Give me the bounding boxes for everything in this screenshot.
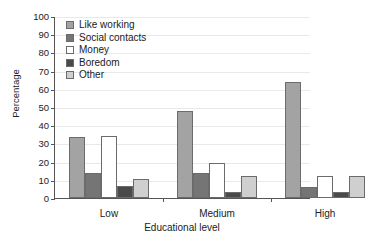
legend-label: Money bbox=[79, 45, 109, 55]
y-tick-label: 80 bbox=[27, 49, 49, 59]
bar-like-working[interactable] bbox=[69, 137, 85, 198]
y-tick-label: 50 bbox=[27, 103, 49, 113]
bar-other[interactable] bbox=[241, 176, 257, 198]
legend-label: Social contacts bbox=[79, 33, 146, 43]
legend-item-social-contacts[interactable]: Social contacts bbox=[66, 33, 146, 43]
legend-item-boredom[interactable]: Boredom bbox=[66, 58, 146, 68]
x-tick-label-low: Low bbox=[55, 208, 163, 219]
y-tick-label: 0 bbox=[27, 194, 49, 204]
y-tick-label: 100 bbox=[27, 12, 49, 22]
y-tick-mark bbox=[51, 199, 55, 200]
bar-social-contacts[interactable] bbox=[85, 173, 101, 198]
y-tick-label: 10 bbox=[27, 176, 49, 186]
bar-group-high: High bbox=[271, 17, 369, 198]
legend: Like workingSocial contactsMoneyBoredomO… bbox=[66, 20, 146, 80]
bar-boredom[interactable] bbox=[117, 186, 133, 198]
x-tick-mark bbox=[271, 198, 272, 202]
y-tick-label: 60 bbox=[27, 85, 49, 95]
legend-swatch-icon bbox=[66, 59, 74, 67]
legend-swatch-icon bbox=[66, 46, 74, 54]
y-axis-title: Percentage bbox=[10, 51, 21, 137]
legend-item-other[interactable]: Other bbox=[66, 70, 146, 80]
y-tick-label: 90 bbox=[27, 30, 49, 40]
bar-boredom[interactable] bbox=[225, 192, 241, 198]
legend-label: Like working bbox=[79, 20, 135, 30]
bar-other[interactable] bbox=[133, 179, 149, 198]
y-tick-label: 30 bbox=[27, 140, 49, 150]
legend-swatch-icon bbox=[66, 21, 74, 29]
x-axis-title: Educational level bbox=[54, 222, 310, 233]
legend-label: Boredom bbox=[79, 58, 120, 68]
legend-label: Other bbox=[79, 70, 104, 80]
legend-swatch-icon bbox=[66, 71, 74, 79]
y-tick-label: 40 bbox=[27, 121, 49, 131]
y-tick-label: 20 bbox=[27, 158, 49, 168]
bar-social-contacts[interactable] bbox=[301, 187, 317, 198]
y-tick-label: 70 bbox=[27, 67, 49, 77]
bar-money[interactable] bbox=[101, 136, 117, 198]
x-tick-label-medium: Medium bbox=[163, 208, 271, 219]
legend-item-money[interactable]: Money bbox=[66, 45, 146, 55]
bar-like-working[interactable] bbox=[285, 82, 301, 198]
x-tick-label-high: High bbox=[271, 208, 369, 219]
bar-boredom[interactable] bbox=[333, 192, 349, 198]
bar-other[interactable] bbox=[349, 176, 365, 198]
bar-social-contacts[interactable] bbox=[193, 173, 209, 198]
bar-money[interactable] bbox=[317, 176, 333, 198]
legend-swatch-icon bbox=[66, 34, 74, 42]
bar-like-working[interactable] bbox=[177, 111, 193, 198]
x-tick-mark bbox=[163, 198, 164, 202]
bar-group-medium: Medium bbox=[163, 17, 271, 198]
bar-money[interactable] bbox=[209, 163, 225, 198]
legend-item-like-working[interactable]: Like working bbox=[66, 20, 146, 30]
